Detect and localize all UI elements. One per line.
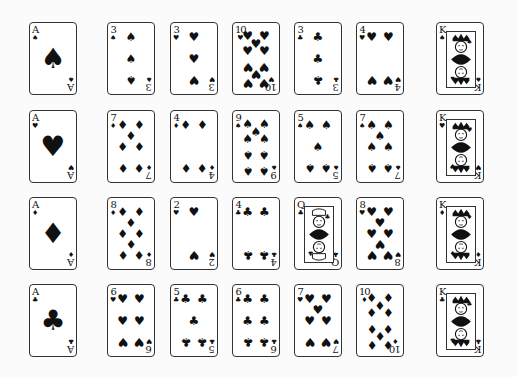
hearts-icon: ♥ [383,249,394,261]
card-K-of-hearts[interactable]: K♥K♥ ♥ ♥ [436,110,484,183]
clubs-icon: ♣ [271,250,277,257]
card-9-of-spades[interactable]: 9♠9♠♠♠♠♠♠♠♠♠♠ [232,110,280,183]
diamonds-icon: ♦ [146,163,152,170]
clubs-icon: ♣ [68,337,74,344]
svg-text:♠: ♠ [450,74,456,82]
card-index-tl: A♦ [32,200,38,217]
hearts-icon: ♥ [333,337,339,344]
card-3-of-clubs[interactable]: 3♣3♣♣♣♣ [294,22,342,95]
card-A-of-diamonds[interactable]: A♦A♦♦ [29,197,77,270]
card-index-tl: A♣ [32,287,38,304]
king-portrait: ♣ ♣ [446,293,476,350]
clubs-icon: ♣ [259,293,270,305]
svg-text:♣: ♣ [450,336,456,344]
card-7-of-hearts[interactable]: 7♥7♥♥♥♥♥♥♥♥ [294,284,342,357]
card-4-of-hearts[interactable]: 4♥4♥♥♥♥♥ [356,22,404,95]
spades-icon: ♠ [259,133,270,145]
spades-icon: ♠ [321,162,332,174]
card-6-of-hearts[interactable]: 6♥6♥♥♥♥♥♥♥ [107,284,155,357]
card-3-of-spades[interactable]: 3♠3♠♠♠♠ [107,22,155,95]
clubs-icon: ♣ [333,75,339,82]
card-K-of-clubs[interactable]: K♣K♣ ♣ ♣ [436,284,484,357]
hearts-icon: ♥ [395,75,401,82]
hearts-icon: ♥ [40,133,65,161]
hearts-icon: ♥ [117,293,128,305]
clubs-icon: ♣ [259,206,270,218]
card-8-of-hearts[interactable]: 8♥8♥♥♥♥♥♥♥♥♥ [356,197,404,270]
card-index-br: 6♣ [271,337,277,354]
card-2-of-hearts[interactable]: 2♥2♥♥♥ [170,197,218,270]
clubs-icon: ♣ [259,336,270,348]
card-6-of-clubs[interactable]: 6♣6♣♣♣♣♣♣♣ [232,284,280,357]
diamonds-icon: ♦ [40,220,65,248]
card-4-of-diamonds[interactable]: 4♦4♦♦♦♦♦ [170,110,218,183]
hearts-icon: ♥ [259,77,270,89]
card-10-of-hearts[interactable]: 10♥10♥♥♥♥♥♥♥♥♥♥♥ [232,22,280,95]
hearts-icon: ♥ [209,75,215,82]
card-index-tl: 8♦ [110,200,116,217]
hearts-icon: ♥ [366,249,377,261]
card-index-br: A♦ [68,250,74,267]
hearts-icon: ♥ [32,123,38,130]
hearts-icon: ♥ [189,31,200,43]
card-K-of-spades[interactable]: K♠K♠ ♠ ♠ [436,22,484,95]
card-3-of-hearts[interactable]: 3♥3♥♥♥♥ [170,22,218,95]
hearts-icon: ♥ [269,75,275,82]
card-10-of-diamonds[interactable]: 10♦10♦♦♦♦♦♦♦♦♦♦♦ [356,284,404,357]
card-5-of-spades[interactable]: 5♠5♠♠♠♠♠♠ [294,110,342,183]
queen-portrait: ♣ ♣ [304,206,334,263]
card-rank: 4 [209,170,214,180]
face-card-art-icon: ♣ ♣ [305,207,333,262]
hearts-icon: ♥ [259,45,270,57]
card-A-of-clubs[interactable]: A♣A♣♣ [29,284,77,357]
spades-icon: ♠ [259,165,270,177]
card-7-of-diamonds[interactable]: 7♦7♦♦♦♦♦♦♦♦ [107,110,155,183]
svg-text:♥: ♥ [450,162,456,170]
clubs-icon: ♣ [189,315,200,327]
diamonds-icon: ♦ [110,123,116,130]
diamonds-icon: ♦ [197,162,208,174]
clubs-icon: ♣ [313,31,324,43]
card-rank: 6 [271,344,276,354]
card-index-tl: K♠ [439,25,445,42]
card-4-of-clubs[interactable]: 4♣4♣♣♣♣♣ [232,197,280,270]
spades-icon: ♠ [259,149,270,161]
card-rank: 4 [395,82,400,92]
hearts-icon: ♥ [321,315,332,327]
hearts-icon: ♥ [189,249,200,261]
king-portrait: ♦ ♦ [446,206,476,263]
diamonds-icon: ♦ [180,119,191,131]
card-5-of-clubs[interactable]: 5♣5♣♣♣♣♣♣ [170,284,218,357]
card-index-tl: A♠ [32,25,38,42]
hearts-icon: ♥ [359,210,365,217]
hearts-icon: ♥ [242,45,253,57]
card-K-of-diamonds[interactable]: K♦K♦ ♦ ♦ [436,197,484,270]
spades-icon: ♠ [68,75,74,82]
hearts-icon: ♥ [173,210,179,217]
hearts-icon: ♥ [383,31,394,43]
hearts-icon: ♥ [189,206,200,218]
clubs-icon: ♣ [180,336,191,348]
card-index-tl: 5♠ [297,113,303,130]
card-A-of-hearts[interactable]: A♥A♥♥ [29,110,77,183]
clubs-icon: ♣ [242,315,253,327]
diamonds-icon: ♦ [180,162,191,174]
card-index-br: 5♣ [209,337,215,354]
clubs-icon: ♣ [297,35,303,42]
card-index-tl: 2♥ [173,200,179,217]
card-Q-of-clubs[interactable]: Q♣Q♣ ♣ ♣ [294,197,342,270]
hearts-icon: ♥ [366,74,377,86]
card-index-tl: 4♥ [359,25,365,42]
card-rank: 2 [209,257,214,267]
card-rank: 3 [209,82,214,92]
clubs-icon: ♣ [313,74,324,86]
diamonds-icon: ♦ [439,210,445,217]
spades-icon: ♠ [110,35,116,42]
hearts-icon: ♥ [304,336,315,348]
clubs-icon: ♣ [242,336,253,348]
card-index-tl: 3♣ [297,25,303,42]
card-7-of-spades[interactable]: 7♠7♠♠♠♠♠♠♠♠ [356,110,404,183]
card-A-of-spades[interactable]: A♠A♠♠ [29,22,77,95]
card-8-of-diamonds[interactable]: 8♦8♦♦♦♦♦♦♦♦♦ [107,197,155,270]
hearts-icon: ♥ [366,31,377,43]
